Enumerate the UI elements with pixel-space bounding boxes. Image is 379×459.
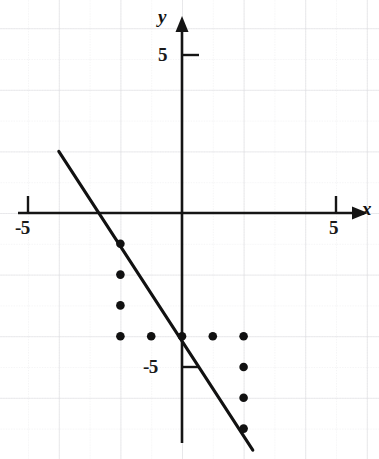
data-point [116,332,125,341]
data-point [239,332,248,341]
x-axis-label: x [362,198,372,220]
data-point [116,301,125,310]
y-tick-label-negative-5: -5 [143,356,158,378]
data-point [116,270,125,279]
data-point [116,240,125,249]
grid-major [0,0,379,459]
y-tick-label-5: 5 [158,44,167,66]
data-point [209,332,218,341]
data-point [178,332,187,341]
x-tick-label-negative-5: -5 [15,217,30,239]
data-point [239,363,248,372]
data-point [239,394,248,403]
data-point [239,424,248,433]
coordinate-plane-svg [0,0,379,459]
x-tick-label-5: 5 [329,217,338,239]
data-point [147,332,156,341]
y-axis-label: y [158,6,166,28]
graph-figure: y x 5 -5 -5 5 [0,0,379,459]
